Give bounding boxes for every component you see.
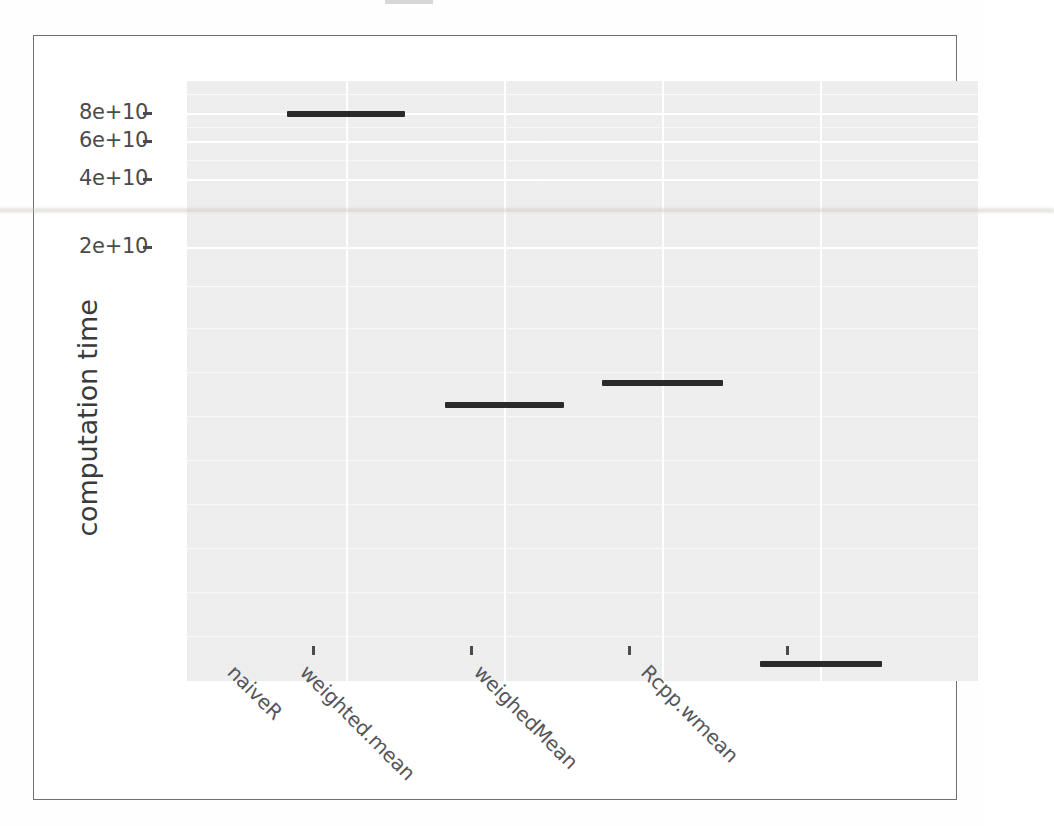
gridline-horizontal-minor <box>187 212 978 213</box>
plot-panel <box>187 81 978 681</box>
gridline-horizontal-minor <box>187 460 978 461</box>
figure-frame: 8e+106e+104e+102e+10 naiveRweighted.mean… <box>33 35 957 800</box>
x-tick-mark <box>312 646 315 655</box>
gridline-horizontal-minor <box>187 127 978 128</box>
gridline-vertical-major <box>820 81 822 681</box>
gridline-horizontal-major <box>187 247 978 249</box>
data-mark-rcpp-wmean <box>760 661 882 667</box>
gridline-horizontal-major <box>187 141 978 143</box>
gridline-horizontal-major <box>187 179 978 181</box>
y-tick-mark <box>143 112 152 115</box>
y-tick-label: 8e+10 <box>79 100 136 124</box>
gridline-horizontal-minor <box>187 286 978 287</box>
x-tick-mark <box>470 646 473 655</box>
scan-noise-overlay <box>187 81 978 681</box>
gridline-horizontal-minor <box>187 548 978 549</box>
y-tick-label: 6e+10 <box>79 128 136 152</box>
gridline-horizontal-minor <box>187 416 978 417</box>
x-tick-mark <box>786 646 789 655</box>
gridline-horizontal-minor <box>187 94 978 95</box>
gridline-vertical-major <box>346 81 348 681</box>
y-axis-title: computation time <box>72 268 103 568</box>
gridline-horizontal-minor <box>187 160 978 161</box>
cutoff-title-sliver <box>385 0 433 4</box>
gridline-horizontal-minor <box>187 372 978 373</box>
x-tick-mark <box>628 646 631 655</box>
gridline-vertical-major <box>504 81 506 681</box>
data-mark-weighedmean <box>602 380 723 386</box>
y-tick-label: 2e+10 <box>79 234 136 258</box>
y-tick-label: 4e+10 <box>79 166 136 190</box>
y-tick-mark <box>143 178 152 181</box>
gridline-horizontal-minor <box>187 328 978 329</box>
data-mark-weighted-mean <box>445 402 564 408</box>
y-tick-mark <box>143 140 152 143</box>
data-mark-naiver <box>287 111 405 117</box>
gridline-horizontal-minor <box>187 592 978 593</box>
gridline-horizontal-minor <box>187 504 978 505</box>
y-tick-mark <box>143 246 152 249</box>
gridline-horizontal-minor <box>187 636 978 637</box>
